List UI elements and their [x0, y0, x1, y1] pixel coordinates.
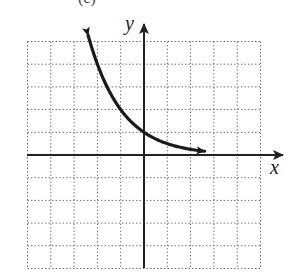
exponential-curve	[88, 35, 205, 151]
exponential-decay-graph: (c) x y	[0, 0, 294, 277]
x-axis-label: x	[269, 156, 279, 178]
y-axis-label: y	[123, 12, 134, 35]
caption-fragment: (c)	[78, 0, 96, 7]
